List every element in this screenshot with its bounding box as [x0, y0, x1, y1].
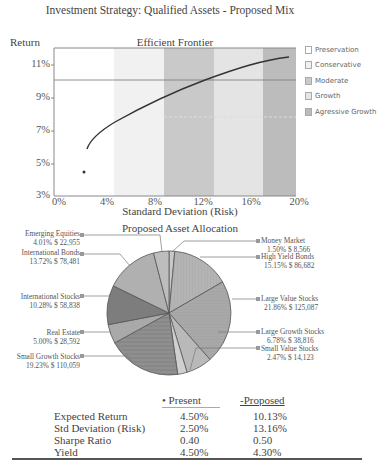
stat-present-value: 2.50% — [180, 422, 208, 434]
y-tick: 9% — [10, 91, 50, 102]
pie-label-name: Emerging Equities — [0, 229, 80, 238]
stat-label: Yield — [54, 446, 145, 458]
pie-label-value: 19.23% $ 110,059 — [0, 361, 80, 370]
stats-present-values: 4.50% 2.50% 0.40 4.50% — [180, 410, 208, 458]
pie-label-name: Real Estate — [0, 328, 80, 337]
legend-label: Moderate — [315, 77, 348, 85]
stat-proposed-value: 0.50 — [253, 434, 287, 446]
stat-label: Expected Return — [54, 410, 145, 422]
pie-label-name: Money Market — [261, 236, 310, 245]
pie-label-value: 4.01% $ 22,955 — [0, 238, 80, 247]
pie-label-value: 5.00% $ 28,592 — [0, 337, 80, 346]
legend-label: Agressive Growth — [315, 108, 377, 116]
pie-label-large-value-stocks: Large Value Stocks 21.86% $ 125,087 — [261, 294, 318, 312]
pie-label-value: 10.28% $ 58,838 — [0, 301, 80, 310]
bottom-rule — [12, 458, 362, 460]
pie-label-name: High Yield Bonds — [261, 252, 315, 261]
pie-label-international-bonds: International Bonds 13.72% $ 78,481 — [0, 248, 80, 266]
pie-label-value: 15.15% $ 86,682 — [261, 261, 315, 270]
x-tick: 0% — [44, 196, 74, 207]
stat-proposed-value: 10.13% — [253, 410, 287, 422]
legend-label: Conservative — [315, 61, 361, 69]
legend-swatch — [305, 77, 312, 85]
stat-label: Std Deviation (Risk) — [54, 422, 145, 434]
legend-label: Growth — [315, 92, 340, 100]
legend-item-conservative: Conservative — [305, 58, 377, 74]
legend-label: Preservation — [315, 46, 359, 54]
stat-present-value: 4.50% — [180, 446, 208, 458]
pie-label-small-value-stocks: Small Value Stocks 2.47% $ 14,123 — [261, 344, 318, 362]
pie-label-value: 21.86% $ 125,087 — [261, 303, 318, 312]
legend-item-preservation: Preservation — [305, 42, 377, 58]
legend-swatch — [305, 61, 312, 69]
pie-label-name: International Bonds — [0, 248, 80, 257]
pie-label-small-growth-stocks: Small Growth Stocks 19.23% $ 110,059 — [0, 352, 80, 370]
pie-label-name: Large Value Stocks — [261, 294, 318, 303]
pie-label-value: 13.72% $ 78,481 — [0, 257, 80, 266]
x-tick: 20% — [284, 196, 314, 207]
pie-label-name: Small Value Stocks — [261, 344, 318, 353]
legend-item-aggressive-growth: Agressive Growth — [305, 104, 377, 120]
pie-label-international-stocks: International Stocks 10.28% $ 58,838 — [0, 292, 80, 310]
stat-present-value: 0.40 — [180, 434, 208, 446]
stat-label: Sharpe Ratio — [54, 434, 145, 446]
stat-proposed-value: 4.30% — [253, 446, 287, 458]
pie-label-high-yield-bonds: High Yield Bonds 15.15% $ 86,682 — [261, 252, 315, 270]
y-tick: 5% — [10, 157, 50, 168]
pie-label-emerging-equities: Emerging Equities 4.01% $ 22,955 — [0, 229, 80, 247]
legend-item-growth: Growth — [305, 89, 377, 105]
pie-label-name: Large Growth Stocks — [261, 327, 324, 336]
pie-label-name: Small Growth Stocks — [0, 352, 80, 361]
legend-item-moderate: Moderate — [305, 73, 377, 89]
pie-label-real-estate: Real Estate 5.00% $ 28,592 — [0, 328, 80, 346]
chart-legend: Preservation Conservative Moderate Growt… — [305, 42, 377, 120]
stats-labels: Expected Return Std Deviation (Risk) Sha… — [54, 410, 145, 458]
x-axis-label: Standard Deviation (Risk) — [95, 205, 265, 217]
legend-swatch — [305, 46, 312, 54]
proposed-header: -Proposed — [240, 394, 285, 406]
stat-present-value: 4.50% — [180, 410, 208, 422]
pie-label-value: 2.47% $ 14,123 — [261, 353, 318, 362]
y-tick: 7% — [10, 124, 50, 135]
pie-label-name: International Stocks — [0, 292, 80, 301]
legend-swatch — [305, 92, 312, 100]
legend-swatch — [305, 108, 312, 116]
y-tick: 11% — [10, 58, 50, 69]
present-header: • Present — [162, 394, 201, 406]
stat-proposed-value: 13.16% — [253, 422, 287, 434]
stats-proposed-values: 10.13% 13.16% 0.50 4.30% — [253, 410, 287, 458]
pie-label-large-growth-stocks: Large Growth Stocks 6.78% $ 38,816 — [261, 327, 324, 345]
present-underline — [162, 407, 220, 408]
